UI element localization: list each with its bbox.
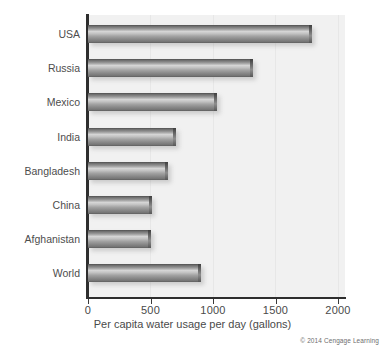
copyright-credit: © 2014 Cengage Learning — [300, 337, 379, 344]
gridline-1000 — [213, 15, 214, 298]
plot-area — [88, 15, 345, 298]
bar-body — [88, 162, 168, 180]
bar-end-cap — [198, 264, 201, 282]
bar-afghanistan[interactable] — [88, 230, 151, 248]
bar-china[interactable] — [88, 196, 152, 214]
x-axis-title: Per capita water usage per day (gallons) — [0, 318, 385, 330]
bar-end-cap — [165, 162, 168, 180]
gridline-500 — [150, 15, 151, 298]
bar-india[interactable] — [88, 128, 176, 146]
bar-body — [88, 196, 152, 214]
x-tick-label-1500: 1500 — [246, 304, 306, 316]
bar-world[interactable] — [88, 264, 201, 282]
bar-body — [88, 264, 201, 282]
category-label-afghanistan: Afghanistan — [0, 233, 80, 245]
bar-end-cap — [149, 196, 152, 214]
bar-bangladesh[interactable] — [88, 162, 168, 180]
bar-end-cap — [309, 25, 312, 43]
bar-usa[interactable] — [88, 25, 312, 43]
category-label-usa: USA — [0, 28, 80, 40]
bar-chart-figure: USARussiaMexicoIndiaBangladeshChinaAfgha… — [0, 0, 385, 353]
bar-body — [88, 230, 151, 248]
x-tick-label-1000: 1000 — [183, 304, 243, 316]
bar-body — [88, 93, 217, 111]
bar-body — [88, 25, 312, 43]
bar-mexico[interactable] — [88, 93, 217, 111]
category-label-world: World — [0, 267, 80, 279]
y-axis-line — [86, 14, 89, 299]
gridline-1500 — [275, 15, 276, 298]
bar-body — [88, 59, 253, 77]
x-tick-label-2000: 2000 — [308, 304, 368, 316]
bar-end-cap — [250, 59, 253, 77]
category-label-russia: Russia — [0, 62, 80, 74]
category-label-bangladesh: Bangladesh — [0, 165, 80, 177]
category-label-mexico: Mexico — [0, 96, 80, 108]
x-axis-line — [86, 297, 346, 299]
bar-end-cap — [148, 230, 151, 248]
bar-end-cap — [214, 93, 217, 111]
bar-russia[interactable] — [88, 59, 253, 77]
bar-body — [88, 128, 176, 146]
x-tick-label-0: 0 — [58, 304, 118, 316]
category-label-china: China — [0, 199, 80, 211]
x-tick-label-500: 500 — [121, 304, 181, 316]
bar-end-cap — [173, 128, 176, 146]
gridline-2000 — [338, 15, 339, 298]
category-label-india: India — [0, 131, 80, 143]
